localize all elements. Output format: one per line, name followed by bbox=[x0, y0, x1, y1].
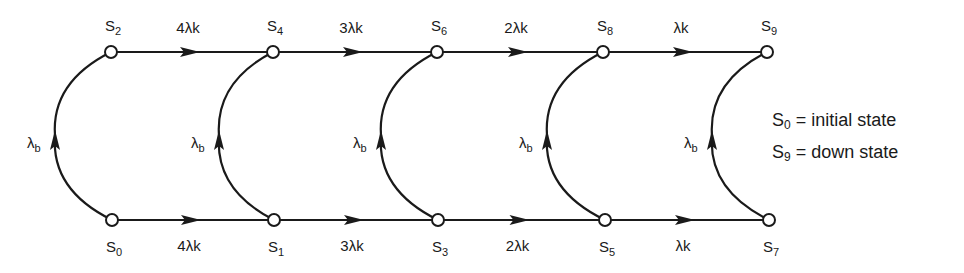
legend-item-down-state: S9 = down state bbox=[772, 142, 898, 167]
legend-text: = initial state bbox=[796, 110, 897, 130]
state-label: S1 bbox=[268, 238, 284, 258]
state-nodes bbox=[105, 46, 775, 226]
state-node-s8 bbox=[597, 46, 609, 58]
legend-text: = down state bbox=[796, 142, 899, 162]
transition-rate-label: λb bbox=[191, 134, 205, 154]
state-label: S7 bbox=[763, 238, 779, 258]
state-node-s9 bbox=[761, 46, 773, 58]
legend-symbol-subscript: 9 bbox=[784, 150, 791, 164]
state-label: S9 bbox=[761, 17, 777, 37]
transition-S0-S2 bbox=[55, 52, 112, 220]
state-node-s4 bbox=[267, 46, 279, 58]
transition-rate-label: λb bbox=[684, 134, 698, 154]
state-node-s6 bbox=[431, 46, 443, 58]
transition-rate-label: 3λk bbox=[339, 19, 363, 36]
transition-rate-label: 4λk bbox=[177, 237, 201, 254]
state-node-s2 bbox=[105, 46, 117, 58]
transition-rate-label: λb bbox=[353, 134, 367, 154]
state-label: S4 bbox=[267, 17, 283, 37]
diagram-labels: 4λk3λk2λkλk4λk3λk2λkλkλbλbλbλbλbS0S1S2S3… bbox=[27, 17, 779, 258]
state-node-s5 bbox=[599, 214, 611, 226]
transition-S5-S8 bbox=[547, 52, 605, 220]
transition-rate-label: λb bbox=[27, 134, 41, 154]
transition-rate-label: 3λk bbox=[340, 237, 364, 254]
transition-rate-label: λk bbox=[674, 19, 690, 36]
transition-S3-S6 bbox=[381, 52, 438, 220]
state-label: S0 bbox=[106, 238, 122, 258]
transition-rate-label: λb bbox=[519, 134, 533, 154]
transition-S1-S4 bbox=[219, 52, 274, 220]
state-node-s7 bbox=[763, 214, 775, 226]
transition-rate-label: 4λk bbox=[176, 19, 200, 36]
legend-item-initial-state: S0 = initial state bbox=[772, 110, 896, 135]
legend-symbol-subscript: 0 bbox=[784, 118, 791, 132]
state-label: S6 bbox=[431, 17, 447, 37]
state-label: S5 bbox=[599, 238, 615, 258]
state-node-s1 bbox=[268, 214, 280, 226]
transition-rate-label: 2λk bbox=[506, 237, 530, 254]
legend-symbol: S bbox=[772, 110, 784, 130]
markov-state-diagram: 4λk3λk2λkλk4λk3λk2λkλkλbλbλbλbλbS0S1S2S3… bbox=[0, 0, 964, 273]
state-node-s3 bbox=[432, 214, 444, 226]
state-label: S3 bbox=[432, 238, 448, 258]
transition-S7-S9 bbox=[712, 52, 769, 220]
transition-rate-label: λk bbox=[676, 237, 692, 254]
transition-rate-label: 2λk bbox=[504, 19, 528, 36]
legend-symbol: S bbox=[772, 142, 784, 162]
transition-edges bbox=[50, 47, 769, 225]
state-label: S8 bbox=[597, 17, 613, 37]
state-label: S2 bbox=[105, 17, 121, 37]
state-node-s0 bbox=[106, 214, 118, 226]
